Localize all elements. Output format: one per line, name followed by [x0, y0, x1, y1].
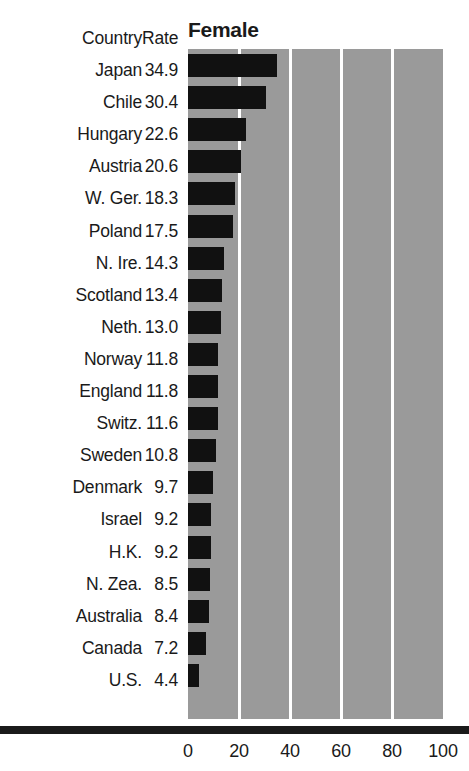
bar	[188, 439, 216, 462]
table-row: Japan34.9	[0, 58, 182, 82]
rate-value: 11.6	[142, 411, 178, 435]
bar	[188, 503, 211, 526]
table-row: U.S.4.4	[0, 668, 182, 692]
table-row: Norway11.8	[0, 347, 182, 371]
x-axis-tick-labels: 020406080100	[0, 738, 469, 768]
x-tick-label: 100	[413, 738, 469, 764]
table-row: Switz.11.6	[0, 411, 182, 435]
table-row: Neth.13.0	[0, 315, 182, 339]
rate-value: 34.9	[142, 58, 178, 82]
rate-value: 8.5	[142, 572, 178, 596]
bar	[188, 343, 218, 366]
country-label: Switz.	[0, 411, 142, 435]
country-label: Neth.	[0, 315, 142, 339]
table-row: Canada7.2	[0, 636, 182, 660]
x-axis-line	[0, 726, 469, 734]
rate-value: 22.6	[142, 122, 178, 146]
gridline-80	[391, 49, 394, 719]
rate-value: 8.4	[142, 604, 178, 628]
table-row: Austria20.6	[0, 154, 182, 178]
country-label: Austria	[0, 154, 142, 178]
country-label: Japan	[0, 58, 142, 82]
bar	[188, 568, 210, 591]
rate-value: 9.2	[142, 540, 178, 564]
bar	[188, 471, 213, 494]
country-label: Canada	[0, 636, 142, 660]
bar	[188, 311, 221, 334]
country-label: N. Zea.	[0, 572, 142, 596]
table-row: W. Ger.18.3	[0, 186, 182, 210]
country-label: Chile	[0, 90, 142, 114]
table-row: Chile30.4	[0, 90, 182, 114]
bar	[188, 536, 211, 559]
table-row: Australia8.4	[0, 604, 182, 628]
rate-value: 30.4	[142, 90, 178, 114]
rate-value: 4.4	[142, 668, 178, 692]
rate-value: 17.5	[142, 219, 178, 243]
country-label: U.S.	[0, 668, 142, 692]
bar	[188, 375, 218, 398]
gridline-40	[289, 49, 292, 719]
table-row: Poland17.5	[0, 219, 182, 243]
bar	[188, 54, 277, 77]
table-row: Scotland13.4	[0, 283, 182, 307]
bar	[188, 632, 206, 655]
rate-value: 13.4	[142, 283, 178, 307]
table-row: England11.8	[0, 379, 182, 403]
bar	[188, 118, 246, 141]
column-header-country: Country	[0, 26, 142, 50]
column-header-rate: Rate	[142, 26, 178, 50]
rate-value: 10.8	[142, 443, 178, 467]
country-label: Poland	[0, 219, 142, 243]
rate-value: 18.3	[142, 186, 178, 210]
table-row: Sweden10.8	[0, 443, 182, 467]
country-label: Australia	[0, 604, 142, 628]
country-label: Sweden	[0, 443, 142, 467]
rate-value: 9.7	[142, 475, 178, 499]
gridline-60	[340, 49, 343, 719]
country-label: Israel	[0, 507, 142, 531]
bar	[188, 279, 222, 302]
rate-value: 7.2	[142, 636, 178, 660]
country-label: Scotland	[0, 283, 142, 307]
rate-value: 13.0	[142, 315, 178, 339]
country-label: N. Ire.	[0, 251, 142, 275]
country-label: Norway	[0, 347, 142, 371]
table-header-row: Country Rate	[0, 26, 182, 50]
rate-value: 14.3	[142, 251, 178, 275]
bar	[188, 247, 224, 270]
country-label: H.K.	[0, 540, 142, 564]
country-label: Hungary	[0, 122, 142, 146]
rate-value: 11.8	[142, 347, 178, 371]
bar	[188, 86, 266, 109]
bar	[188, 215, 233, 238]
table-row: Israel9.2	[0, 507, 182, 531]
country-rate-table: Country Rate Japan34.9Chile30.4Hungary22…	[0, 0, 182, 720]
table-row: Denmark9.7	[0, 475, 182, 499]
chart-title: Female	[188, 18, 259, 42]
bar	[188, 150, 241, 173]
rate-value: 20.6	[142, 154, 178, 178]
bar	[188, 182, 235, 205]
country-label: W. Ger.	[0, 186, 142, 210]
country-label: Denmark	[0, 475, 142, 499]
bar-chart-plot-area	[188, 49, 443, 719]
rate-value: 11.8	[142, 379, 178, 403]
bar	[188, 664, 199, 687]
table-row: N. Zea.8.5	[0, 572, 182, 596]
country-label: England	[0, 379, 142, 403]
bar	[188, 600, 209, 623]
bar	[188, 407, 218, 430]
table-row: N. Ire.14.3	[0, 251, 182, 275]
table-row: Hungary22.6	[0, 122, 182, 146]
table-row: H.K.9.2	[0, 540, 182, 564]
rate-value: 9.2	[142, 507, 178, 531]
